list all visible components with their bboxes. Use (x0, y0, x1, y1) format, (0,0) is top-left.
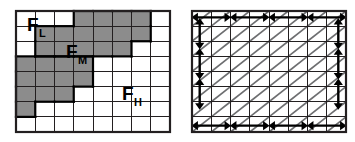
shaded-cell (74, 72, 93, 87)
shaded-cell (93, 26, 112, 41)
label-FH-subscript: H (134, 96, 142, 108)
figure-root: FLFMFH (0, 0, 355, 142)
shaded-cell (16, 102, 35, 117)
label-FL-subscript: L (39, 27, 46, 39)
shaded-cell (35, 56, 54, 71)
label-FM-base: F (66, 41, 78, 62)
shaded-cell (132, 11, 151, 26)
shaded-cell (112, 41, 131, 56)
shaded-cell (55, 72, 74, 87)
shaded-cell (16, 87, 35, 102)
shaded-cell (93, 41, 112, 56)
shaded-cell (55, 87, 74, 102)
label-FM-subscript: M (78, 54, 87, 66)
label-FL-base: F (27, 14, 39, 35)
label-FH-base: F (122, 83, 134, 104)
shaded-cell (35, 87, 54, 102)
figure-canvas: FLFMFH (0, 0, 355, 142)
shaded-cell (132, 26, 151, 41)
shaded-cell (35, 72, 54, 87)
shaded-cell (35, 41, 54, 56)
shaded-cell (112, 26, 131, 41)
shaded-cell (16, 56, 35, 71)
shaded-cell (112, 11, 131, 26)
shaded-cell (55, 26, 74, 41)
shaded-cell (16, 72, 35, 87)
shaded-cell (74, 11, 93, 26)
shaded-cell (74, 26, 93, 41)
shaded-cell (93, 11, 112, 26)
